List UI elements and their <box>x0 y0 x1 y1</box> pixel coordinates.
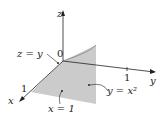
y-arrow-icon <box>150 69 156 74</box>
diagram-canvas <box>0 0 166 128</box>
y-tick-label: 1 <box>124 73 130 83</box>
x-tick-label: 1 <box>21 84 27 94</box>
curve-label: y = x² <box>107 86 137 96</box>
plane-zy-label: z = y <box>17 49 43 59</box>
x-axis-label: x <box>8 96 14 106</box>
z-axis-label: z <box>57 9 62 19</box>
y-axis-label: y <box>150 76 156 86</box>
origin-label: 0 <box>57 49 63 59</box>
plane-x-label: x = 1 <box>48 104 75 114</box>
